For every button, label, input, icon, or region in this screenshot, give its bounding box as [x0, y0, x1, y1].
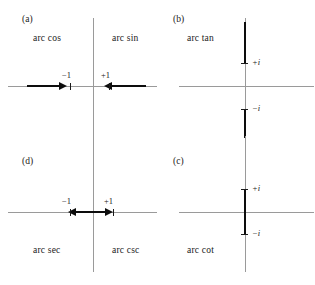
arrowhead-right-segment-d — [105, 208, 113, 216]
tick-label-plus-one-d: +1 — [104, 196, 113, 206]
panel-a-arc-cos-arc-sin: (a) arc cos arc sin −1 +1 — [0, 0, 157, 142]
panel-c-arc-cot: (c) arc cot +i −i — [157, 142, 314, 284]
branch-cut-figure: (a) arc cos arc sin −1 +1 (b) arc tan +i… — [0, 0, 315, 285]
tick-plus-i-b — [241, 63, 248, 64]
real-axis-c — [179, 212, 314, 213]
tick-minus-i-c — [241, 234, 248, 235]
real-axis-b — [179, 86, 314, 87]
tick-minus-i-b — [241, 109, 248, 110]
branch-cut-segment-d — [72, 211, 109, 213]
tick-plus-i-c — [241, 189, 248, 190]
panel-b-label-arc-tan: arc tan — [187, 33, 214, 43]
tick-label-minus-i-b: −i — [252, 103, 260, 113]
branch-cut-upper-ray-b — [244, 22, 246, 63]
panel-d-label-arc-sec: arc sec — [33, 245, 61, 255]
tick-label-plus-i-b: +i — [252, 57, 260, 67]
branch-cut-segment-c — [244, 189, 246, 235]
tick-minus-one-d — [70, 209, 71, 216]
arrowhead-right-ray-a — [104, 82, 112, 90]
tick-label-plus-i-b-text: +i — [252, 57, 260, 67]
imaginary-axis-d — [93, 136, 94, 272]
panel-a-label-arc-sin: arc sin — [112, 33, 138, 43]
tick-label-minus-i-c: −i — [252, 228, 260, 238]
branch-cut-right-ray-a — [111, 85, 146, 87]
tick-label-plus-i-c-text: +i — [252, 183, 260, 193]
panel-d-arc-sec-arc-csc: (d) arc sec arc csc −1 +1 — [0, 142, 157, 284]
panel-a-tag: (a) — [22, 14, 33, 24]
tick-label-minus-one-a: −1 — [62, 70, 71, 80]
tick-label-minus-one-d: −1 — [62, 196, 71, 206]
branch-cut-lower-ray-b — [244, 110, 246, 138]
panel-b-arc-tan: (b) arc tan +i −i — [157, 0, 314, 142]
arrowhead-left-ray-a — [59, 82, 67, 90]
panel-c-label-arc-cot: arc cot — [187, 245, 214, 255]
panel-a-label-arc-cos: arc cos — [33, 33, 61, 43]
panel-d-label-arc-csc: arc csc — [112, 245, 140, 255]
tick-minus-one-a — [70, 83, 71, 90]
tick-label-minus-i-c-text: −i — [252, 228, 260, 238]
tick-label-plus-i-c: +i — [252, 183, 260, 193]
tick-plus-one-d — [113, 209, 114, 216]
tick-label-plus-one-a: +1 — [101, 70, 110, 80]
tick-plus-one-a — [109, 83, 110, 90]
panel-d-tag: (d) — [22, 156, 33, 166]
panel-b-tag: (b) — [173, 14, 184, 24]
imaginary-axis-a — [93, 18, 94, 136]
panel-c-tag: (c) — [173, 156, 184, 166]
branch-cut-left-ray-a — [27, 85, 62, 87]
tick-label-minus-i-b-text: −i — [252, 103, 260, 113]
